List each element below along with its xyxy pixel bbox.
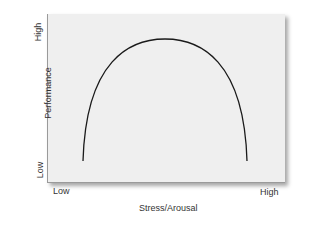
y-axis-label: Performance xyxy=(43,67,53,119)
x-tick-high: High xyxy=(260,187,279,197)
y-tick-high: High xyxy=(33,23,43,42)
x-axis-label: Stress/Arousal xyxy=(139,203,198,213)
y-tick-low: Low xyxy=(35,162,45,179)
x-tick-low: Low xyxy=(53,186,70,196)
performance-curve xyxy=(83,39,247,161)
